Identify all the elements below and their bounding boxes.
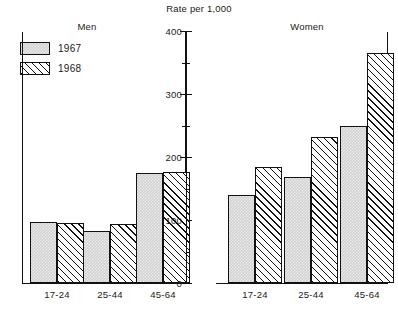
y-axis-tick-label: 0 bbox=[177, 278, 182, 289]
y-axis-major-tick: 200 bbox=[186, 157, 192, 158]
women-baseline-axis bbox=[216, 283, 388, 284]
y-axis-minor-tick bbox=[186, 189, 190, 190]
y-axis: 0100200300400 bbox=[186, 32, 216, 284]
bar-men-45-64-1967 bbox=[136, 173, 163, 283]
plot-panel-men bbox=[22, 32, 186, 284]
y-axis-tick-label: 400 bbox=[166, 26, 182, 37]
bar-chart-figure: Rate per 1,000 Men Women 1967 1968 01002… bbox=[0, 0, 398, 316]
y-axis-minor-tick bbox=[186, 252, 190, 253]
men-left-spine bbox=[22, 32, 23, 284]
category-label-women-45-64: 45-64 bbox=[334, 289, 398, 300]
y-axis-tick-label: 100 bbox=[166, 215, 182, 226]
y-axis-minor-tick bbox=[186, 126, 190, 127]
y-axis-tick-label: 200 bbox=[166, 152, 182, 163]
bar-women-45-64-1967 bbox=[340, 126, 367, 284]
bar-women-17-24-1967 bbox=[228, 195, 255, 283]
y-axis-minor-tick bbox=[186, 63, 190, 64]
y-axis-tick-label: 300 bbox=[166, 89, 182, 100]
panel-heading-women: Women bbox=[272, 21, 342, 32]
y-axis-major-tick: 0 bbox=[186, 283, 192, 284]
y-axis-major-tick: 400 bbox=[186, 31, 192, 32]
bar-men-25-44-1968 bbox=[110, 224, 137, 283]
chart-title: Rate per 1,000 bbox=[0, 3, 398, 14]
category-label-men-45-64: 45-64 bbox=[130, 289, 196, 300]
bar-women-45-64-1968 bbox=[367, 53, 394, 283]
y-axis-line bbox=[186, 32, 187, 284]
y-axis-major-tick: 100 bbox=[186, 220, 192, 221]
bar-women-25-44-1968 bbox=[311, 137, 338, 283]
men-baseline-axis bbox=[22, 283, 186, 284]
bar-women-25-44-1967 bbox=[284, 177, 311, 283]
plot-panel-women bbox=[216, 32, 388, 284]
bar-men-17-24-1967 bbox=[30, 222, 57, 283]
panel-heading-men: Men bbox=[52, 21, 122, 32]
bar-men-17-24-1968 bbox=[57, 223, 84, 283]
bar-women-17-24-1968 bbox=[255, 167, 282, 283]
bar-men-25-44-1967 bbox=[83, 231, 110, 283]
y-axis-major-tick: 300 bbox=[186, 94, 192, 95]
